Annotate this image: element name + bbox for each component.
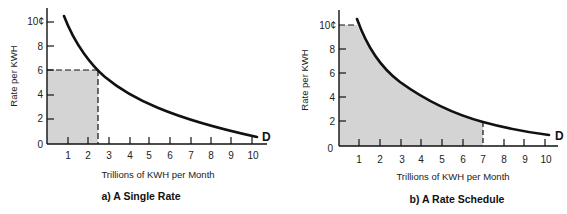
svg-text:3: 3 bbox=[399, 154, 405, 165]
svg-text:1: 1 bbox=[356, 154, 362, 165]
y-tick-label: 6 bbox=[329, 68, 335, 79]
svg-text:6: 6 bbox=[167, 150, 173, 161]
y-axis-title: Rate per KWH bbox=[8, 45, 19, 106]
svg-text:2: 2 bbox=[85, 150, 91, 161]
svg-text:7: 7 bbox=[480, 154, 486, 165]
svg-text:10: 10 bbox=[247, 150, 259, 161]
x-tick-labels: 1 2 3 4 5 6 7 8 9 10 bbox=[65, 150, 259, 161]
chart-caption: b) A Rate Schedule bbox=[410, 193, 505, 205]
svg-text:8: 8 bbox=[501, 154, 507, 165]
y-tick-label: 4 bbox=[37, 89, 43, 100]
svg-text:5: 5 bbox=[439, 154, 445, 165]
demand-curve-label: D bbox=[555, 129, 564, 143]
svg-text:6: 6 bbox=[460, 154, 466, 165]
y-tick-label: 0 bbox=[327, 143, 333, 154]
svg-text:9: 9 bbox=[522, 154, 528, 165]
chart-caption: a) A Single Rate bbox=[101, 190, 180, 202]
svg-text:9: 9 bbox=[228, 150, 234, 161]
consumer-shaded-area bbox=[339, 25, 483, 146]
y-tick-label: 8 bbox=[37, 41, 43, 52]
chart-single-rate: 10¢ 8 6 4 2 0 1 2 3 4 5 6 7 8 9 10 D Rat… bbox=[8, 8, 271, 202]
y-tick-label: 6 bbox=[37, 65, 43, 76]
y-tick-label: 8 bbox=[329, 44, 335, 55]
figure: 10¢ 8 6 4 2 0 1 2 3 4 5 6 7 8 9 10 D Rat… bbox=[0, 0, 567, 214]
chart-rate-schedule: 10¢ 8 6 4 2 0 1 2 3 4 5 6 7 8 9 10 D Rat… bbox=[299, 10, 564, 205]
svg-text:4: 4 bbox=[418, 154, 424, 165]
x-axis-title: Trillions of KWH per Month bbox=[396, 171, 509, 182]
svg-text:1: 1 bbox=[65, 150, 71, 161]
svg-text:8: 8 bbox=[208, 150, 214, 161]
demand-curve-label: D bbox=[262, 130, 271, 144]
revenue-shaded-area bbox=[47, 70, 98, 144]
svg-text:2: 2 bbox=[377, 154, 383, 165]
y-tick-label: 0 bbox=[37, 139, 43, 150]
y-tick-label: 2 bbox=[329, 116, 335, 127]
svg-text:5: 5 bbox=[146, 150, 152, 161]
svg-text:3: 3 bbox=[106, 150, 112, 161]
y-axis-title: Rate per KWH bbox=[299, 49, 310, 110]
y-tick-label: 10¢ bbox=[27, 16, 44, 27]
y-tick-label: 2 bbox=[37, 113, 43, 124]
x-tick-labels: 1 2 3 4 5 6 7 8 9 10 bbox=[356, 154, 552, 165]
y-tick-label: 10¢ bbox=[319, 20, 336, 31]
svg-text:4: 4 bbox=[127, 150, 133, 161]
y-tick-label: 4 bbox=[329, 92, 335, 103]
svg-text:7: 7 bbox=[188, 150, 194, 161]
x-axis-title: Trillions of KWH per Month bbox=[101, 169, 214, 180]
svg-text:10: 10 bbox=[540, 154, 552, 165]
